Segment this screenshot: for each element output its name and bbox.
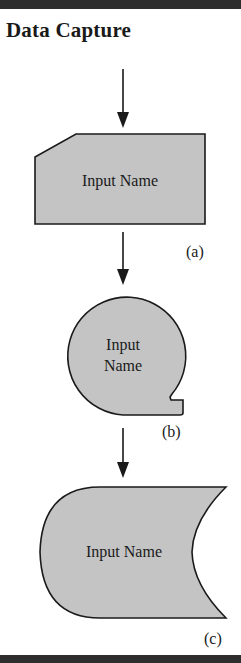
arrowhead-icon (117, 462, 129, 478)
flow-arrow-3 (117, 428, 129, 478)
shape-b-caption: (b) (162, 423, 181, 441)
flowchart-canvas (0, 0, 241, 663)
shape-b-text-line1: Input (73, 334, 173, 355)
flow-arrow-1 (117, 69, 129, 128)
bottom-bar (0, 655, 241, 663)
shape-a-caption: (a) (186, 243, 204, 261)
arrowhead-icon (117, 269, 129, 285)
flow-arrow-2 (117, 232, 129, 285)
shape-b-text: Input Name (73, 334, 173, 376)
shape-b-text-line2: Name (73, 355, 173, 376)
shape-c-text: Input Name (60, 541, 188, 562)
shape-c-caption: (c) (204, 630, 222, 648)
shape-a-text: Input Name (35, 170, 205, 191)
arrowhead-icon (117, 112, 129, 128)
